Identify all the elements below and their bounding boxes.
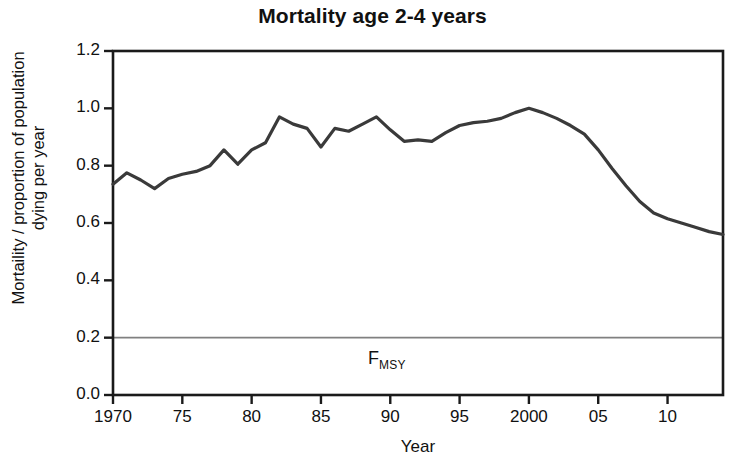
plot-frame <box>113 51 723 395</box>
x-tick-label: 80 <box>242 407 261 427</box>
x-tick-label: 85 <box>311 407 330 427</box>
plot-area <box>0 0 745 472</box>
x-tick-label: 2000 <box>510 407 548 427</box>
y-tick-label: 0.8 <box>40 155 100 175</box>
fmsy-annotation: FMSY <box>368 348 406 372</box>
y-tick-label: 1.2 <box>40 40 100 60</box>
x-tick-label: 1970 <box>94 407 132 427</box>
fmsy-subscript: MSY <box>379 358 406 372</box>
chart-figure: Mortality age 2-4 years Mortaility / pro… <box>0 0 745 472</box>
mortality-series-line <box>113 108 723 234</box>
y-tick-label: 0.6 <box>40 212 100 232</box>
x-tick-label: 75 <box>173 407 192 427</box>
y-tick-label: 0.4 <box>40 269 100 289</box>
y-tick-label: 0.2 <box>40 327 100 347</box>
x-tick-label: 05 <box>589 407 608 427</box>
y-tick-label: 1.0 <box>40 97 100 117</box>
y-tick-label: 0.0 <box>40 384 100 404</box>
x-axis-label: Year <box>113 437 723 457</box>
x-tick-label: 10 <box>658 407 677 427</box>
x-tick-label: 95 <box>450 407 469 427</box>
x-tick-label: 90 <box>381 407 400 427</box>
fmsy-symbol: F <box>368 348 379 368</box>
